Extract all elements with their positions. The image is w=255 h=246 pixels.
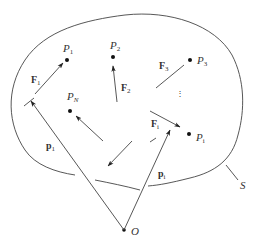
surface-boundary-main <box>11 14 243 186</box>
p1-label: p1 <box>46 140 56 153</box>
f1-label: F1 <box>31 74 41 87</box>
internal-force-vector <box>108 141 132 166</box>
f2-label: F2 <box>121 82 131 95</box>
position-vector-p1 <box>31 101 124 230</box>
pn-point-label: PN <box>66 90 79 104</box>
force-vector-fn <box>76 116 103 141</box>
fi-label: Fi <box>151 118 159 131</box>
point-p3 <box>188 58 192 62</box>
p3-point-label: P3 <box>196 54 208 68</box>
p1-tip-tick <box>24 98 34 106</box>
p2-point-label: P2 <box>109 39 121 53</box>
p1-point-label: P1 <box>62 42 74 56</box>
origin-label: O <box>131 225 139 237</box>
ellipsis: ⋮ <box>176 89 184 98</box>
point-p2 <box>111 55 115 59</box>
surface-boundary-lower-middle <box>95 180 140 190</box>
f3-label: F3 <box>159 60 169 73</box>
point-pn <box>68 109 72 113</box>
surface-label-leader <box>226 165 238 180</box>
particle-system-diagram: S O p1 pi F1 P1 P2 F2 P3 F3 ⋮ <box>0 0 255 246</box>
pi-label: pi <box>158 168 166 181</box>
internal-force-dash <box>150 138 156 142</box>
force-vector-f2 <box>113 66 117 102</box>
pi-point-label: Pi <box>195 131 205 145</box>
surface-label: S <box>240 179 246 191</box>
surface-boundary-lower-left <box>25 150 75 175</box>
point-pi <box>187 132 191 136</box>
point-p1 <box>65 58 69 62</box>
